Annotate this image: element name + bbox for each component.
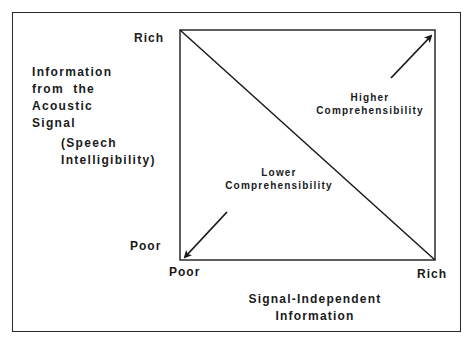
y-sublabel-line: Intelligibility) [61,152,156,169]
diagonal-line [180,30,435,260]
x-label-line: Signal-Independent [240,291,390,308]
x-tick-rich: Rich [417,267,447,281]
x-tick-poor: Poor [169,265,200,279]
region-label-line: Comprehensibility [214,179,344,192]
lower-comprehensibility-label: Lower Comprehensibility [214,166,344,192]
y-tick-rich: Rich [134,31,164,45]
y-label-line: Information [32,64,112,81]
x-axis-label: Signal-Independent Information [240,291,390,325]
higher-comprehensibility-label: Higher Comprehensibility [305,91,435,117]
y-sublabel-line: (Speech [61,135,156,152]
arrow-up-right-icon [391,36,431,78]
region-label-line: Higher [305,91,435,104]
y-axis-label: Information from the Acoustic Signal [32,64,112,132]
y-tick-poor: Poor [130,239,161,253]
y-axis-sublabel: (Speech Intelligibility) [61,135,156,169]
arrow-down-left-icon [185,212,227,257]
x-label-line: Information [240,308,390,325]
y-label-line: Signal [32,115,112,132]
region-label-line: Lower [214,166,344,179]
y-label-line: Acoustic [32,98,112,115]
y-label-line: from the [32,81,112,98]
region-label-line: Comprehensibility [305,104,435,117]
